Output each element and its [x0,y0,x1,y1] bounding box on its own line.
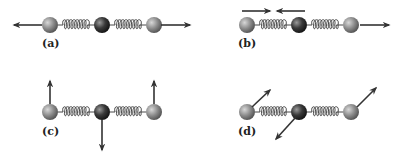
spring [307,107,343,116]
panel-label-d: (d) [238,125,256,138]
left-atom [42,17,58,33]
panel-c: (c) [42,81,162,150]
molecule [42,17,162,33]
arrow-center-atom-down-left [276,117,296,139]
center-atom [94,17,110,33]
panel-label-b: (b) [238,37,256,50]
panel-label-c: (c) [42,125,59,138]
molecule [42,104,162,120]
panel-b: (b) [238,11,389,50]
molecule-vibration-diagram: (a) (b) (c) (d) [0,0,400,156]
panel-label-a: (a) [42,37,60,50]
center-atom [291,104,307,120]
left-atom [239,17,255,33]
spring [255,20,291,29]
spring [307,20,343,29]
panel-d: (d) [238,88,376,139]
arrow-right-atom-up-right [357,88,376,107]
right-atom [146,104,162,120]
right-atom [146,17,162,33]
left-atom [42,104,58,120]
spring [58,20,94,29]
center-atom [94,104,110,120]
panel-a: (a) [14,17,190,50]
right-atom [343,17,359,33]
molecule [239,17,359,33]
spring [255,107,291,116]
spring [58,107,94,116]
molecule [239,104,359,120]
center-atom [291,17,307,33]
spring [110,107,146,116]
spring [110,20,146,29]
arrow-left-atom-up-right [252,90,270,107]
